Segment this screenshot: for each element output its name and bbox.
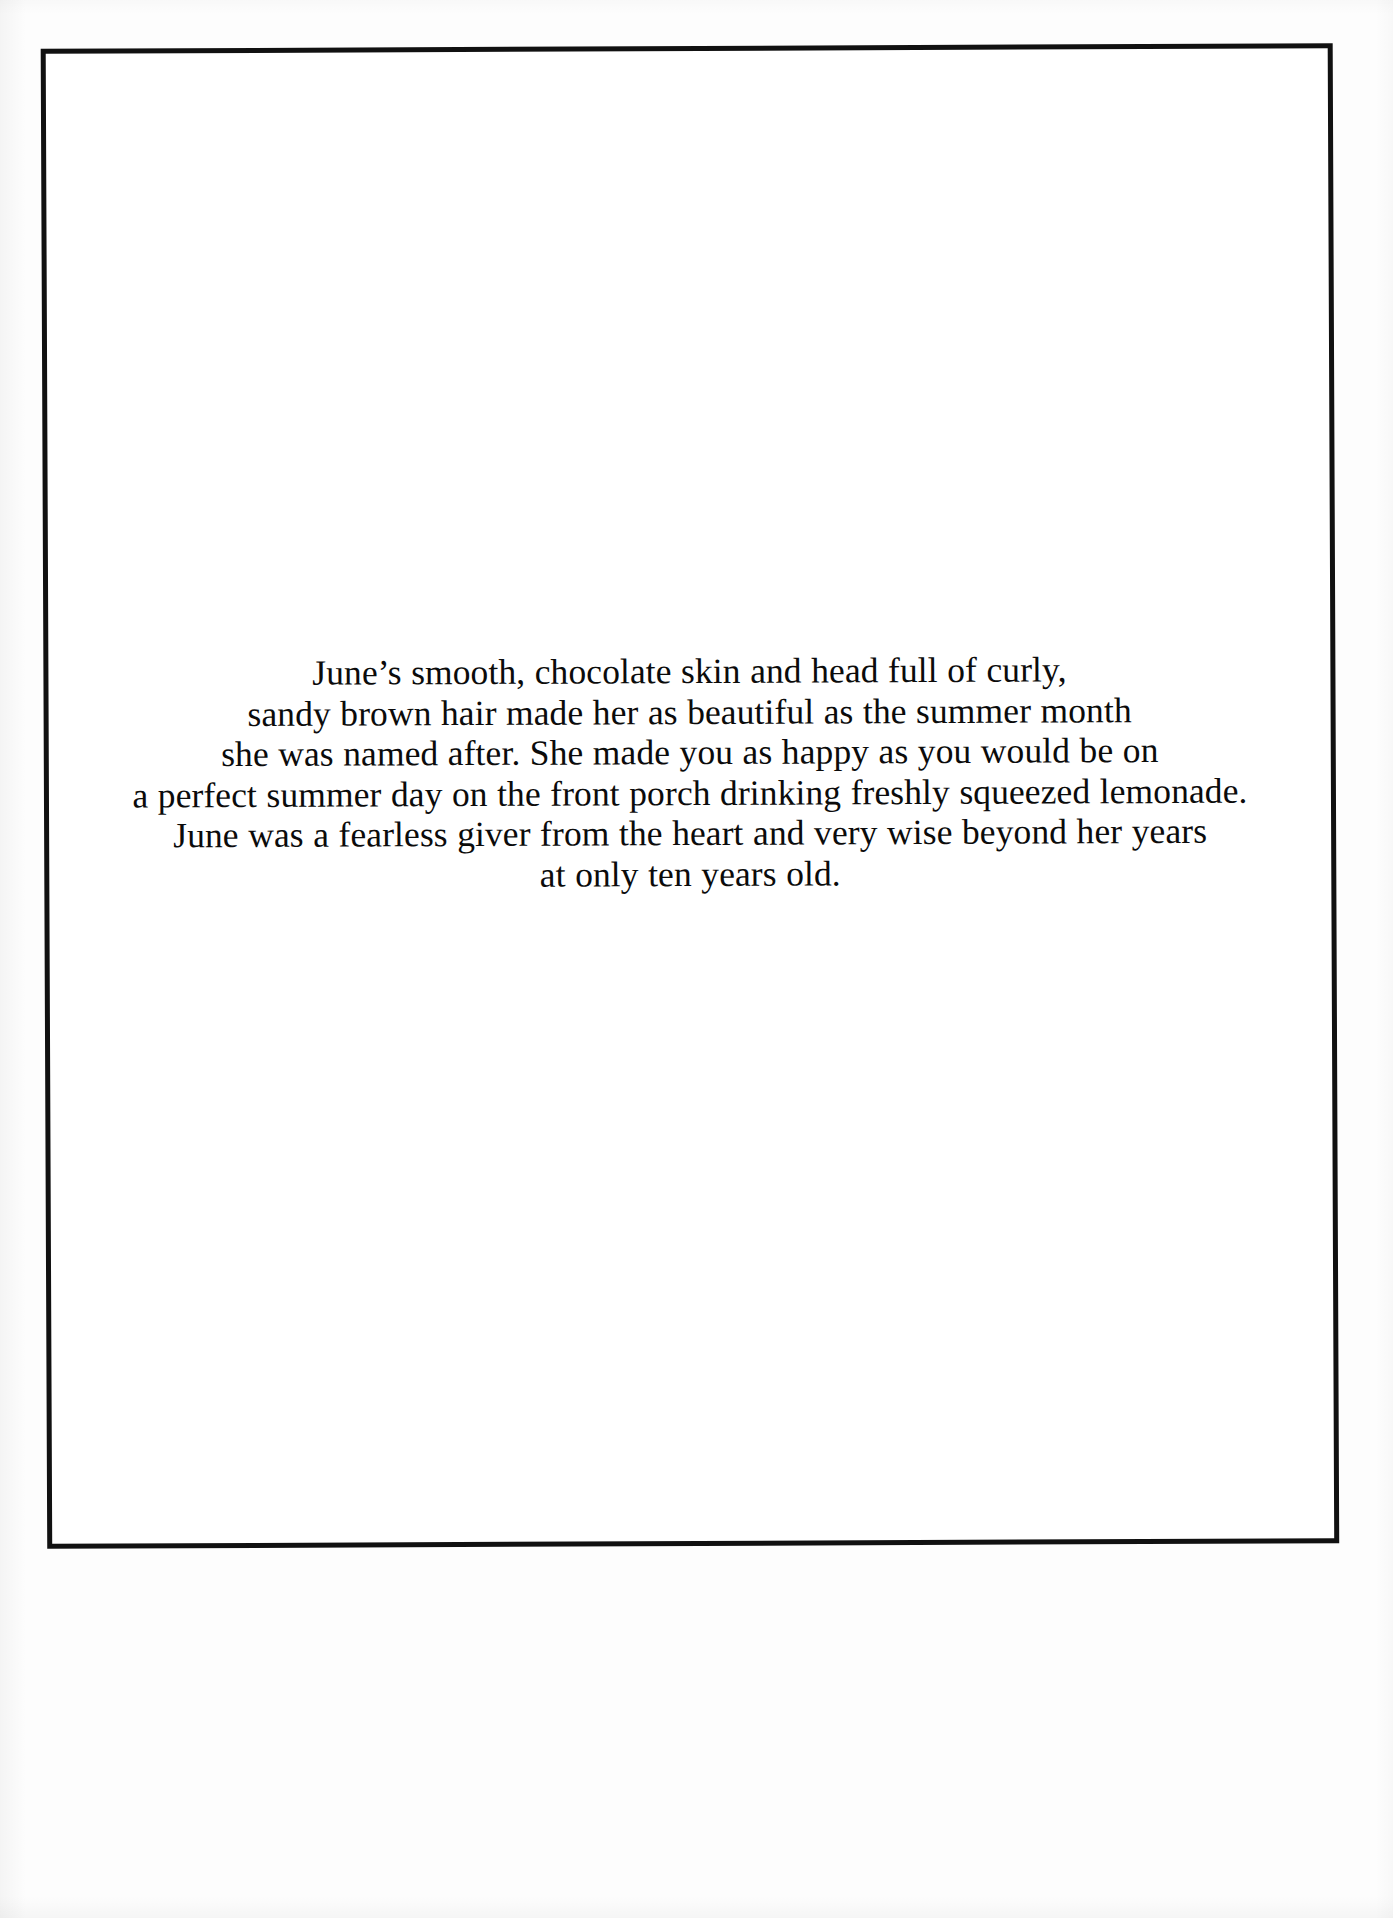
body-line: a perfect summer day on the front porch … [54,770,1326,816]
body-line: June was a fearless giver from the heart… [54,810,1326,856]
body-line: at only ten years old. [54,851,1326,897]
page-border-frame: June’s smooth, chocolate skin and head f… [41,43,1340,1549]
body-line: sandy brown hair made her as beautiful a… [54,689,1326,735]
body-line: she was named after. She made you as hap… [54,729,1326,775]
scanned-page-canvas: June’s smooth, chocolate skin and head f… [0,0,1393,1918]
page-frame-rotation-wrapper: June’s smooth, chocolate skin and head f… [0,0,1393,1918]
page-body-text: June’s smooth, chocolate skin and head f… [53,648,1326,897]
body-line: June’s smooth, chocolate skin and head f… [53,648,1325,694]
